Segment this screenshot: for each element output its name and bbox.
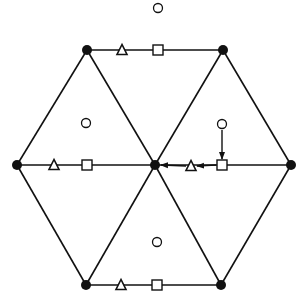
mesh-edge xyxy=(17,165,86,285)
node-bottom-left-icon xyxy=(81,280,91,290)
square-marker-icon xyxy=(152,280,162,290)
node-bottom-right-icon xyxy=(216,280,226,290)
node-right-icon xyxy=(286,160,296,170)
mesh-edge xyxy=(221,165,291,285)
square-marker-icon xyxy=(153,45,163,55)
mesh-edge xyxy=(17,50,87,165)
open-circle-marker-icon xyxy=(82,119,91,128)
hexagonal-mesh-diagram xyxy=(0,0,305,301)
open-circle-marker-icon xyxy=(218,120,227,129)
node-top-left-icon xyxy=(82,45,92,55)
node-left-icon xyxy=(12,160,22,170)
open-circle-marker-icon xyxy=(153,238,162,247)
mesh-edge xyxy=(87,50,155,165)
arrow-icon xyxy=(197,165,216,166)
cell-center-markers xyxy=(82,4,227,247)
square-marker-icon xyxy=(82,160,92,170)
edge-markers xyxy=(49,45,227,291)
mesh-edge xyxy=(155,50,223,165)
node-top-right-icon xyxy=(218,45,228,55)
mesh-edge xyxy=(155,165,221,285)
node-center-icon xyxy=(150,160,160,170)
mesh-edge xyxy=(86,165,155,285)
square-marker-icon xyxy=(217,160,227,170)
mesh-edge xyxy=(223,50,291,165)
open-circle-marker-icon xyxy=(154,4,163,13)
arrow-icon xyxy=(161,165,186,166)
